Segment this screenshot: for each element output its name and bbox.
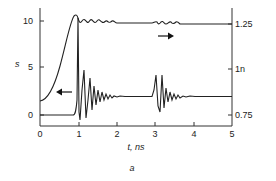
arrow-right-icon xyxy=(158,33,174,40)
x-tick-3: 3 xyxy=(152,129,157,139)
y-left-tick-5: 5 xyxy=(28,62,33,72)
arrow-left-icon xyxy=(56,89,72,96)
x-tick-2: 2 xyxy=(114,129,119,139)
x-ticks xyxy=(79,122,194,126)
y-right-tick-0.75: 0.75 xyxy=(235,110,253,120)
y-left-tick-0: 0 xyxy=(28,110,33,120)
y-right-tick-1.25: 1.25 xyxy=(235,19,253,29)
y-axis-label: s xyxy=(15,59,20,69)
y-left-tick-10: 10 xyxy=(23,16,33,26)
x-axis-label: t, ns xyxy=(127,142,145,152)
y-right-tick-1n: 1n xyxy=(235,64,245,74)
chart-canvas: 0 5 10 s 1.25 1n 0.75 0 1 2 3 4 5 t, ns … xyxy=(0,0,276,181)
series-n-curve xyxy=(40,15,232,101)
x-tick-4: 4 xyxy=(191,129,196,139)
x-tick-0: 0 xyxy=(37,129,42,139)
panel-label: a xyxy=(129,163,134,173)
axes xyxy=(40,8,232,126)
right-y-ticks xyxy=(228,24,232,115)
x-tick-5: 5 xyxy=(229,129,234,139)
x-tick-1: 1 xyxy=(76,129,81,139)
